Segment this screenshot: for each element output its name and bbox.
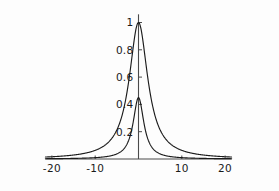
chart-container: -20-101020 0.20.40.60.81 (0, 0, 279, 191)
x-axis-tick-labels: -20-101020 (43, 162, 232, 174)
plot-canvas: -20-101020 0.20.40.60.81 (0, 0, 279, 191)
x-tick-label: 10 (175, 162, 189, 174)
y-tick-label: 0.8 (116, 44, 134, 56)
y-tick-label: 0.6 (116, 71, 134, 83)
y-axis-tick-labels: 0.20.40.60.81 (116, 16, 134, 137)
x-tick-label: -20 (43, 162, 61, 174)
y-tick-label: 0.4 (116, 98, 134, 110)
y-tick-label: 1 (127, 16, 134, 28)
axes-group (45, 14, 231, 159)
x-tick-label: 20 (218, 162, 232, 174)
y-tick-label: 0.2 (116, 126, 134, 138)
x-tick-label: -10 (86, 162, 104, 174)
